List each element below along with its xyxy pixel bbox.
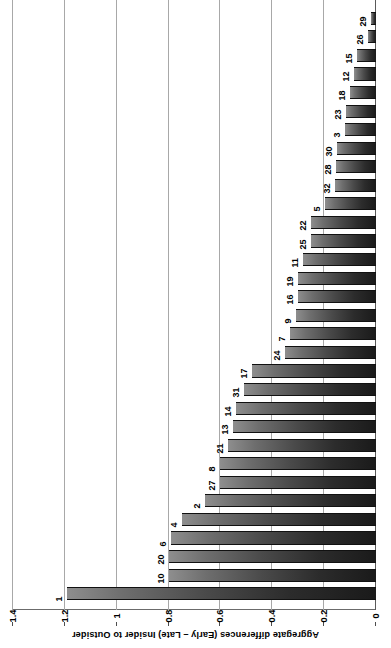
bar-value-label: 24 [272,346,283,360]
value-axis-title: Aggregate differences (Early – Late) Ins… [0,630,391,640]
bar [171,531,376,544]
bar [182,513,376,526]
bar-row: 15 [0,51,391,62]
bar-row: 9 [0,311,391,322]
bar [354,67,376,80]
bar-row: 30 [0,144,391,155]
bar-value-label: 20 [155,551,166,565]
bar-row: 31 [0,385,391,396]
value-axis-ticks: 00.20.40.60.811.21.4 [0,610,391,626]
bar-value-label: 18 [337,87,348,101]
bar-value-label: 19 [285,272,296,286]
bar [169,550,376,563]
bar [311,216,376,229]
bar-value-label: 31 [230,384,241,398]
bar [345,123,376,136]
bar-value-label: 10 [155,569,166,583]
bar-row: 16 [0,292,391,303]
bar [296,309,376,322]
bar-value-label: 15 [343,49,354,63]
bar-value-label: 26 [355,31,366,45]
bar-value-label: 1 [54,588,65,602]
bar-row: 25 [0,236,391,247]
bar-row: 23 [0,107,391,118]
bar-row: 21 [0,441,391,452]
bar [169,569,376,582]
bar-row: 24 [0,348,391,359]
bar [311,234,376,247]
bar-row: 29 [0,14,391,25]
bar-value-label: 21 [215,439,226,453]
bar-value-label: 12 [340,68,351,82]
bar-value-label: 14 [223,402,234,416]
bar [220,476,376,489]
bar-row: 28 [0,162,391,173]
rotated-figure-canvas: Aggregate differences (Early – Late) Ins… [0,0,391,648]
bar-value-label: 8 [207,458,218,472]
bar-value-label: 7 [277,328,288,342]
bar [244,383,376,396]
bar-row: 13 [0,422,391,433]
bar-row: 20 [0,552,391,563]
bar-row: 27 [0,478,391,489]
bar-value-label: 32 [321,179,332,193]
bar-row: 12 [0,69,391,80]
bar-row: 2 [0,496,391,507]
bar [228,439,376,452]
bar [290,327,376,340]
bar [350,86,376,99]
bar [337,142,376,155]
bar-value-label: 11 [290,254,301,268]
bar [335,179,376,192]
bar-value-label: 28 [322,161,333,175]
bar-row: 19 [0,274,391,285]
bar [233,420,376,433]
bar [220,457,376,470]
bar-value-label: 13 [220,421,231,435]
bar-value-label: 3 [331,124,342,138]
bar [336,160,376,173]
bar-row: 7 [0,329,391,340]
bar-value-label: 25 [298,235,309,249]
bar [298,290,376,303]
bar-row: 10 [0,571,391,582]
bar-row: 18 [0,88,391,99]
bar-row: 3 [0,125,391,136]
bar-row: 6 [0,533,391,544]
bar-row: 32 [0,181,391,192]
bar [205,494,376,507]
bar-row: 4 [0,515,391,526]
bar-value-label: 17 [238,365,249,379]
bar [298,272,376,285]
bar [303,253,376,266]
bar-value-label: 16 [285,291,296,305]
bar-value-label: 4 [168,513,179,527]
bar-value-label: 30 [324,142,335,156]
bar-value-label: 27 [207,476,218,490]
bar-value-label: 6 [158,532,169,546]
bar-value-label: 2 [191,495,202,509]
bar-value-label: 5 [312,198,323,212]
bar-row: 5 [0,199,391,210]
bar [67,587,376,600]
bar-row: 17 [0,366,391,377]
bar [285,346,376,359]
bar [236,402,376,415]
bar-value-label: 22 [298,216,309,230]
bar [346,105,376,118]
bar [357,49,376,62]
bar-value-label: 29 [357,12,368,26]
bar-row: 8 [0,459,391,470]
bar-row: 26 [0,32,391,43]
bar-row: 1 [0,589,391,600]
bar [252,364,376,377]
bar-row: 11 [0,255,391,266]
bar [368,30,376,43]
bar-row: 22 [0,218,391,229]
bar-value-label: 23 [333,105,344,119]
bar-row: 14 [0,404,391,415]
bar [325,197,376,210]
bar [371,12,376,25]
plot-area: 1102064227821131431172479161911252253228… [0,0,391,610]
figure-root: Aggregate differences (Early – Late) Ins… [0,0,391,648]
